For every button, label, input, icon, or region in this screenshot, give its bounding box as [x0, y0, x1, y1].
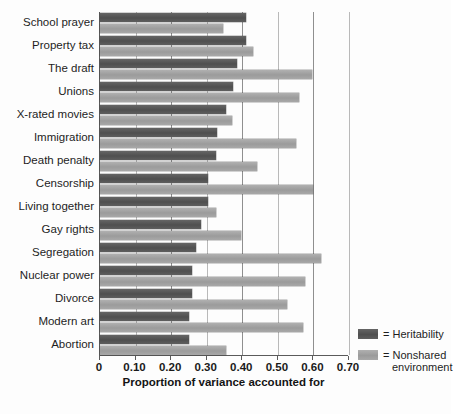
x-tick-mark — [135, 356, 136, 360]
bar-row — [100, 173, 348, 196]
bar-heritability — [100, 197, 208, 206]
category-label: Property tax — [0, 39, 94, 52]
x-axis-ticks: 00.100.200.300.400.500.600.70 — [99, 356, 348, 374]
category-label: Censorship — [0, 177, 94, 190]
legend-swatch-nonshared — [358, 350, 378, 360]
x-tick-label: 0.70 — [337, 361, 359, 373]
bar-row — [100, 241, 348, 264]
x-tick-mark — [312, 356, 313, 360]
bar-nonshared — [100, 70, 312, 79]
bar-row — [100, 287, 348, 310]
bar-nonshared — [100, 139, 296, 148]
bar-heritability — [100, 174, 208, 183]
category-label: Abortion — [0, 338, 94, 351]
x-tick-label: 0.60 — [301, 361, 323, 373]
bar-heritability — [100, 128, 217, 137]
bar-heritability — [100, 289, 192, 298]
bar-heritability — [100, 220, 201, 229]
category-label: Segregation — [0, 246, 94, 259]
bar-heritability — [100, 335, 189, 344]
bar-nonshared — [100, 185, 313, 194]
gridline — [349, 12, 350, 355]
bar-nonshared — [100, 208, 216, 217]
category-label: Death penalty — [0, 154, 94, 167]
legend-text-nonshared-line1: Nonshared — [393, 349, 447, 361]
bar-nonshared — [100, 93, 299, 102]
legend-text-heritability: Heritability — [393, 328, 444, 340]
category-label: Nuclear power — [0, 269, 94, 282]
x-tick-label: 0.20 — [159, 361, 181, 373]
bar-nonshared — [100, 300, 287, 309]
bar-row — [100, 58, 348, 81]
bar-heritability — [100, 151, 216, 160]
bar-row — [100, 81, 348, 104]
bar-nonshared — [100, 24, 223, 33]
category-label: Living together — [0, 200, 94, 213]
category-label: Immigration — [0, 131, 94, 144]
bar-nonshared — [100, 346, 226, 355]
bar-row — [100, 104, 348, 127]
legend-swatch-heritability — [358, 329, 378, 339]
bar-nonshared — [100, 277, 305, 286]
category-label: School prayer — [0, 16, 94, 29]
x-tick-mark — [99, 356, 100, 360]
legend-equals-sign-2: = — [383, 349, 389, 361]
bar-nonshared — [100, 323, 303, 332]
bar-heritability — [100, 13, 246, 22]
category-label: The draft — [0, 62, 94, 75]
legend-item-nonshared: = Nonshared environment — [358, 349, 450, 373]
bar-row — [100, 127, 348, 150]
x-tick-mark — [348, 356, 349, 360]
x-tick-label: 0.40 — [230, 361, 252, 373]
x-tick-mark — [170, 356, 171, 360]
category-label: X-rated movies — [0, 108, 94, 121]
x-tick-mark — [241, 356, 242, 360]
legend-text-nonshared-line2: environment — [383, 361, 453, 373]
bar-row — [100, 150, 348, 173]
bar-nonshared — [100, 116, 232, 125]
bar-heritability — [100, 266, 192, 275]
bar-row — [100, 310, 348, 333]
bar-nonshared — [100, 162, 257, 171]
category-label: Divorce — [0, 292, 94, 305]
bar-row — [100, 333, 348, 356]
x-axis-title: Proportion of variance accounted for — [99, 376, 348, 388]
category-label: Modern art — [0, 315, 94, 328]
category-label: Gay rights — [0, 223, 94, 236]
bar-heritability — [100, 243, 196, 252]
bar-row — [100, 264, 348, 287]
bar-heritability — [100, 312, 189, 321]
legend-item-heritability: = Heritability — [358, 328, 450, 340]
legend-label-heritability: = Heritability — [383, 328, 444, 340]
bar-heritability — [100, 82, 233, 91]
category-label: Unions — [0, 85, 94, 98]
bar-row — [100, 12, 348, 35]
x-tick-label: 0.30 — [195, 361, 217, 373]
x-tick-label: 0.50 — [266, 361, 288, 373]
bar-rows — [100, 12, 348, 355]
x-tick-label: 0 — [96, 361, 102, 373]
bar-nonshared — [100, 254, 321, 263]
bar-nonshared — [100, 47, 253, 56]
chart-legend: = Heritability = Nonshared environment — [358, 328, 450, 382]
bar-row — [100, 35, 348, 58]
plot-area — [99, 12, 348, 356]
bar-row — [100, 218, 348, 241]
bar-heritability — [100, 36, 246, 45]
bar-row — [100, 195, 348, 218]
bar-heritability — [100, 105, 226, 114]
x-tick-mark — [206, 356, 207, 360]
legend-label-nonshared: = Nonshared environment — [383, 349, 453, 373]
bar-nonshared — [100, 231, 241, 240]
legend-equals-sign: = — [383, 328, 389, 340]
x-tick-mark — [277, 356, 278, 360]
x-tick-label: 0.10 — [123, 361, 145, 373]
bar-heritability — [100, 59, 237, 68]
